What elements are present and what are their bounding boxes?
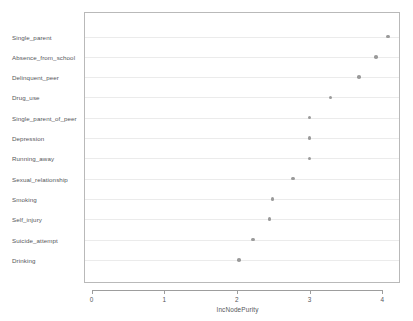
category-label: Depression	[12, 135, 44, 142]
gridline	[85, 260, 399, 261]
x-axis-tick-label: 1	[162, 296, 166, 303]
x-axis-tick	[310, 290, 311, 294]
gridline	[85, 57, 399, 58]
category-label: Smoking	[12, 195, 37, 202]
x-axis-title-label: IncNodePurity	[154, 306, 258, 313]
gridline	[85, 240, 399, 241]
gridline	[85, 199, 399, 200]
category-label: Self_injury	[12, 216, 42, 223]
plot-frame	[84, 12, 400, 283]
x-axis-tick	[92, 290, 93, 294]
gridline	[85, 118, 399, 119]
data-point	[271, 197, 275, 201]
category-axis-labels: Single_parentAbsence_from_schoolDelinque…	[0, 0, 82, 321]
x-axis-tick-label: 4	[381, 296, 385, 303]
x-axis-tick	[382, 290, 383, 294]
gridline	[85, 138, 399, 139]
variable-importance-dotplot: Single_parentAbsence_from_schoolDelinque…	[0, 0, 413, 321]
category-label: Delinquent_peer	[12, 74, 59, 81]
category-label: Drug_use	[12, 94, 40, 101]
x-axis-tick-label: 2	[235, 296, 239, 303]
data-point	[291, 177, 295, 181]
data-point	[357, 75, 361, 79]
gridline	[85, 97, 399, 98]
gridline	[85, 77, 399, 78]
data-point	[374, 55, 378, 59]
category-label: Single_parent	[12, 33, 52, 40]
data-point	[251, 238, 255, 242]
x-axis-tick	[164, 290, 165, 294]
category-label: Running_away	[12, 155, 54, 162]
x-axis-tick	[237, 290, 238, 294]
category-label: Single_parent_of_peer	[12, 114, 77, 121]
x-axis-title: IncNodePurity	[0, 306, 413, 313]
gridline	[85, 179, 399, 180]
x-axis-tick-label: 0	[90, 296, 94, 303]
gridline	[85, 158, 399, 159]
category-label: Absence_from_school	[12, 53, 75, 60]
category-label: Suicide_attempt	[12, 236, 58, 243]
gridline	[85, 219, 399, 220]
category-label: Sexual_relationship	[12, 175, 68, 182]
gridline	[85, 37, 399, 38]
category-label: Drinking	[12, 256, 36, 263]
x-axis-tick-label: 3	[308, 296, 312, 303]
data-point	[237, 258, 241, 262]
